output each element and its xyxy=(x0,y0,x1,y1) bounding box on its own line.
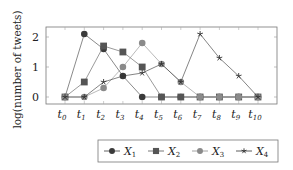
x-tick-label: t6 xyxy=(173,108,182,122)
x-tick-label: t10 xyxy=(248,108,262,122)
x-tick-label: t3 xyxy=(115,108,124,122)
circle-marker xyxy=(216,94,223,101)
circle-marker xyxy=(81,31,88,38)
circle-marker xyxy=(139,40,146,47)
x-tick-label: t5 xyxy=(154,108,163,122)
line-chart: 012t0t1t2t3t4t5t6t7t8t9t10log(number of … xyxy=(0,0,293,170)
x-tick-label: t0 xyxy=(58,108,67,122)
circle-marker xyxy=(100,85,107,92)
x-tick-label: t4 xyxy=(135,108,144,122)
x-tick-label: t2 xyxy=(96,108,105,122)
star-marker xyxy=(197,31,203,36)
legend: X1X2X3X4 xyxy=(98,140,278,162)
circle-marker xyxy=(120,64,127,71)
square-marker xyxy=(81,79,88,86)
y-tick-label: 0 xyxy=(32,91,39,104)
x-tick-label: t1 xyxy=(77,108,86,122)
circle-marker xyxy=(197,94,204,101)
x-tick-label: t8 xyxy=(212,108,221,122)
square-marker xyxy=(120,49,127,56)
square-marker xyxy=(100,43,107,50)
circle-marker xyxy=(235,94,242,101)
square-marker xyxy=(158,94,165,101)
plot-area: 012t0t1t2t3t4t5t6t7t8t9t10log(number of … xyxy=(11,10,277,128)
square-marker xyxy=(139,64,146,71)
square-marker xyxy=(177,94,184,101)
y-tick-label: 2 xyxy=(32,31,39,44)
circle-marker xyxy=(197,148,203,154)
y-axis-label: log(number of tweets) xyxy=(11,10,23,128)
y-tick-label: 1 xyxy=(32,61,39,74)
x-tick-label: t9 xyxy=(231,108,240,122)
circle-marker xyxy=(109,148,115,154)
square-marker xyxy=(153,148,159,154)
circle-marker xyxy=(139,94,146,101)
x-tick-label: t7 xyxy=(193,108,202,122)
